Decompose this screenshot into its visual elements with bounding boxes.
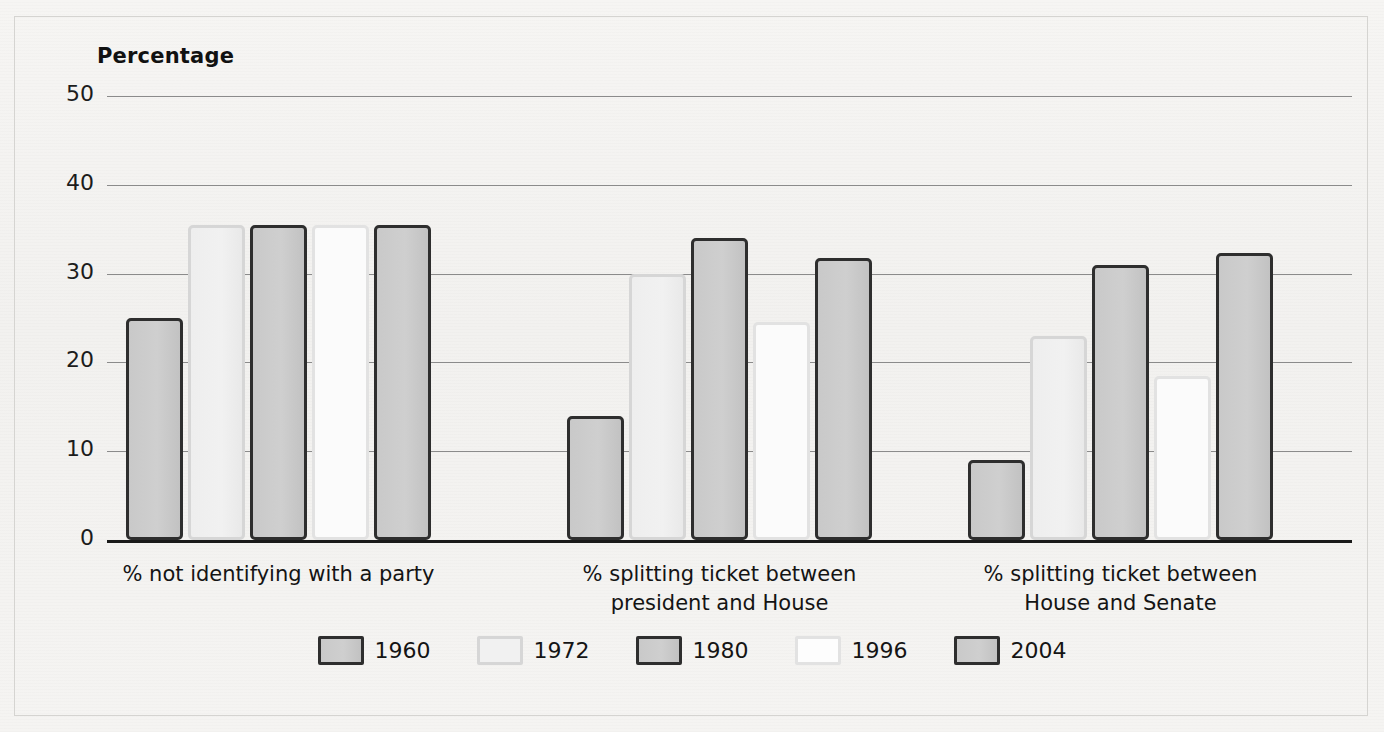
bar-2004-group-2 — [815, 258, 872, 540]
legend-swatch-icon-1972 — [477, 636, 523, 665]
legend-item-1996[interactable]: 1996 — [795, 636, 908, 665]
bar-1960-group-1 — [126, 318, 183, 540]
bar-2004-group-3 — [1216, 253, 1273, 540]
group-label-line: House and Senate — [888, 589, 1353, 618]
legend-swatch-icon-1960 — [318, 636, 364, 665]
gridline-50 — [107, 96, 1352, 97]
legend-item-1980[interactable]: 1980 — [636, 636, 749, 665]
group-label-line: % splitting ticket between — [888, 560, 1353, 589]
group-label-line: % splitting ticket between — [487, 560, 952, 589]
bar-1996-group-2 — [753, 322, 810, 540]
legend-swatch-icon-2004 — [954, 636, 1000, 665]
bar-1972-group-3 — [1030, 336, 1087, 540]
bar-1980-group-2 — [691, 238, 748, 540]
bar-1980-group-3 — [1092, 265, 1149, 540]
plot-area: 01020304050% not identifying with a part… — [0, 0, 1384, 732]
legend-swatch-icon-1996 — [795, 636, 841, 665]
bar-1960-group-2 — [567, 416, 624, 540]
y-axis-tick-0: 0 — [42, 525, 94, 550]
bar-1960-group-3 — [968, 460, 1025, 540]
y-axis-tick-50: 50 — [42, 81, 94, 106]
legend-label-1980: 1980 — [693, 638, 749, 663]
bar-1996-group-1 — [312, 225, 369, 540]
legend-label-2004: 2004 — [1011, 638, 1067, 663]
legend-label-1996: 1996 — [852, 638, 908, 663]
y-axis-tick-10: 10 — [42, 436, 94, 461]
bar-1980-group-1 — [250, 225, 307, 540]
legend-item-1960[interactable]: 1960 — [318, 636, 431, 665]
y-axis-tick-40: 40 — [42, 170, 94, 195]
bar-1996-group-3 — [1154, 376, 1211, 540]
x-axis-line — [107, 540, 1352, 543]
group-label-line: president and House — [487, 589, 952, 618]
bar-2004-group-1 — [374, 225, 431, 540]
legend-swatch-icon-1980 — [636, 636, 682, 665]
legend-label-1972: 1972 — [534, 638, 590, 663]
bar-1972-group-2 — [629, 274, 686, 540]
x-axis-group-label-2: % splitting ticket betweenpresident and … — [487, 560, 952, 618]
gridline-40 — [107, 185, 1352, 186]
x-axis-group-label-3: % splitting ticket betweenHouse and Sena… — [888, 560, 1353, 618]
legend-item-2004[interactable]: 2004 — [954, 636, 1067, 665]
x-axis-group-label-1: % not identifying with a party — [46, 560, 511, 589]
legend-item-1972[interactable]: 1972 — [477, 636, 590, 665]
chart-page: Percentage 01020304050% not identifying … — [0, 0, 1384, 732]
group-label-line: % not identifying with a party — [46, 560, 511, 589]
y-axis-tick-20: 20 — [42, 347, 94, 372]
y-axis-tick-30: 30 — [42, 259, 94, 284]
chart-legend: 19601972198019962004 — [0, 636, 1384, 665]
bar-1972-group-1 — [188, 225, 245, 540]
legend-label-1960: 1960 — [375, 638, 431, 663]
